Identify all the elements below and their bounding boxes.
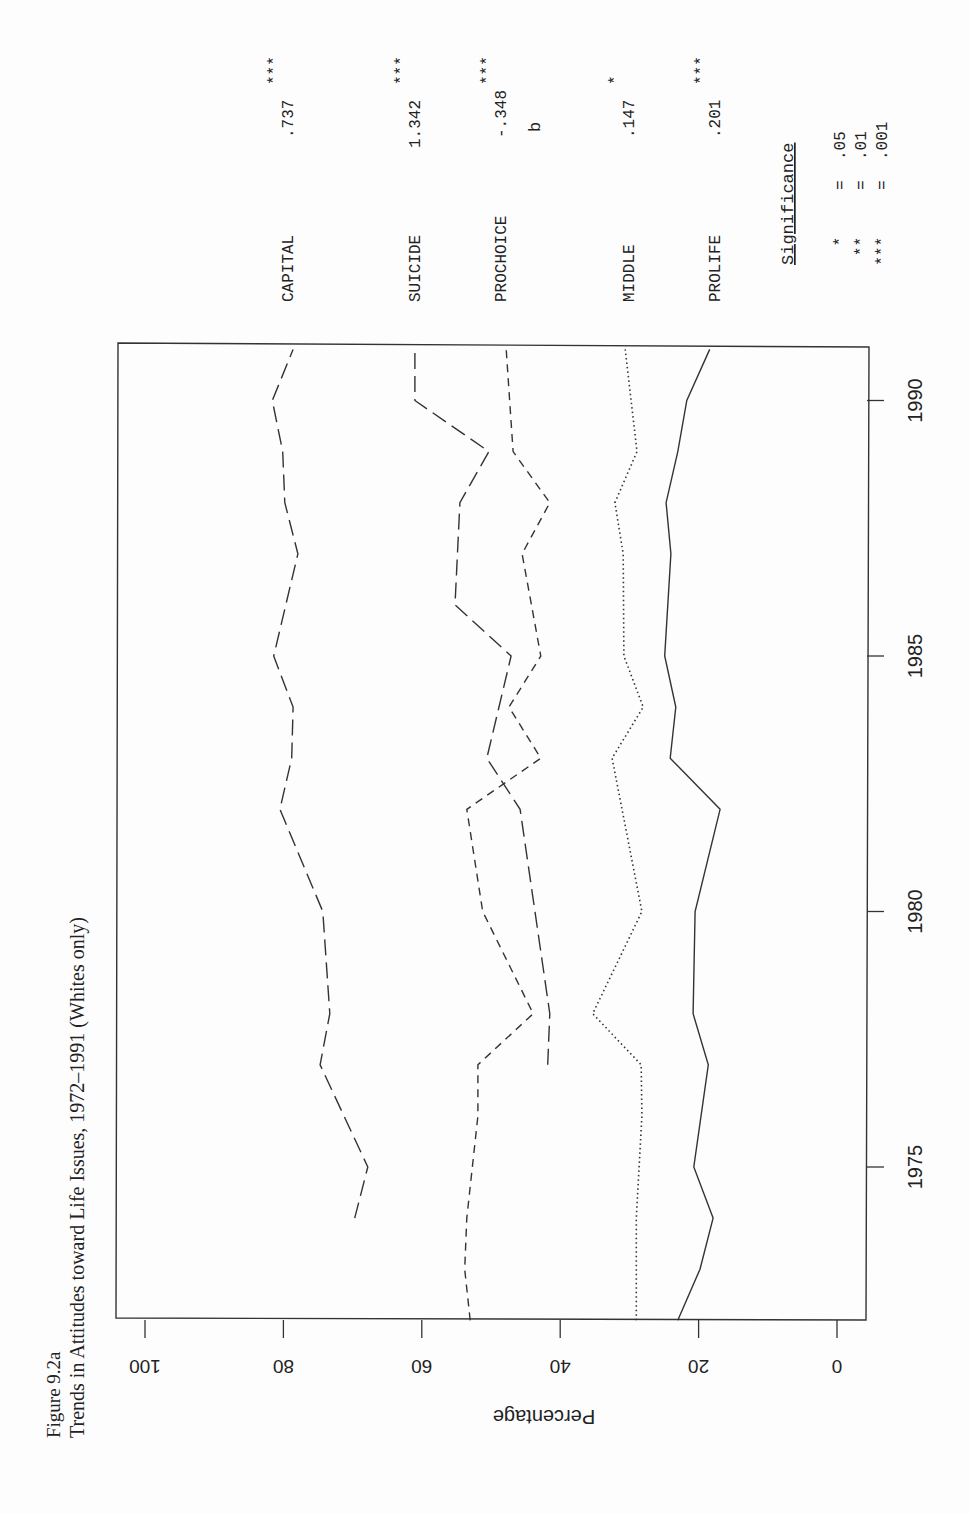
significance-equals: = — [874, 180, 892, 190]
series-line-prochoice — [465, 349, 550, 1320]
y-tick-label: 80 — [273, 1356, 294, 1377]
series-line-capital — [272, 349, 368, 1218]
plot-frame — [116, 343, 869, 1320]
series-line-suicide — [415, 349, 550, 1064]
legend-header-b: b — [526, 122, 545, 132]
legend-label-prolife: PROLIFE — [707, 235, 725, 302]
y-tick-label: 40 — [550, 1356, 571, 1377]
significance-equals: = — [853, 180, 871, 190]
year-axis: 1975198019851990 — [867, 378, 926, 1189]
y-axis-label: Percentage — [493, 1406, 595, 1428]
legend-coefficient: .737 — [280, 100, 298, 138]
legend-significance-stars: *** — [693, 56, 711, 85]
x-tick-label: 1990 — [904, 378, 926, 423]
series-layer — [272, 349, 720, 1320]
legend-coefficient: -.348 — [493, 90, 511, 138]
series-line-prolife — [665, 349, 720, 1320]
y-tick-label: 20 — [688, 1356, 709, 1377]
legend-coefficient: .201 — [707, 100, 725, 138]
legend-significance-stars: * — [607, 75, 625, 85]
figure-title: Trends in Attitudes toward Life Issues, … — [66, 917, 89, 1438]
significance-stars: *** — [874, 237, 892, 266]
y-tick-label: 60 — [411, 1356, 432, 1377]
significance-title: Significance — [779, 143, 798, 265]
significance-p-value: .05 — [832, 131, 850, 160]
figure-label: Figure 9.2a — [43, 1351, 64, 1438]
legend-label-prochoice: PROCHOICE — [493, 216, 511, 302]
y-tick-label: 100 — [129, 1356, 161, 1377]
x-tick-label: 1985 — [904, 634, 926, 679]
chart-canvas: 020406080100 1975198019851990 Percentage… — [0, 0, 970, 1514]
y-tick-label: 0 — [832, 1356, 843, 1377]
legend-coefficient: .147 — [621, 100, 639, 138]
legend-label-middle: MIDDLE — [621, 244, 639, 302]
significance-stars: ** — [853, 237, 871, 256]
x-tick-label: 1975 — [904, 1145, 926, 1190]
legend-coefficient: 1.342 — [407, 100, 425, 148]
significance-p-value: .001 — [874, 122, 892, 160]
legend-significance-stars: *** — [393, 56, 411, 85]
x-tick-label: 1980 — [904, 889, 926, 934]
legend-label-capital: CAPITAL — [280, 235, 298, 302]
series-line-middle — [593, 349, 644, 1320]
legend-significance-stars: *** — [266, 56, 284, 85]
percentage-axis: 020406080100 — [129, 1320, 842, 1377]
legend-significance-stars: *** — [479, 56, 497, 85]
significance-stars: * — [832, 237, 850, 247]
legend-label-suicide: SUICIDE — [407, 235, 425, 302]
significance-equals: = — [832, 180, 850, 190]
legend: bCAPITAL.737***SUICIDE1.342***PROCHOICE-… — [266, 56, 892, 302]
significance-p-value: .01 — [853, 131, 871, 160]
